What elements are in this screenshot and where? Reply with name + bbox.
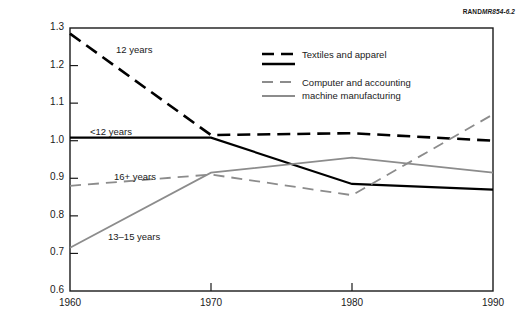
legend-label-computer-line2: machine manufacturing <box>302 90 401 101</box>
legend-label-computer-line1: Computer and accounting <box>302 77 411 88</box>
series-annotation: 12 years <box>116 44 152 55</box>
y-tick-label: 0.9 <box>38 171 64 182</box>
series-line <box>70 114 493 195</box>
y-tick-label: 1.0 <box>38 134 64 145</box>
y-axis-ticks <box>70 66 78 254</box>
series-annotation: 13–15 years <box>108 231 160 242</box>
x-tick-label: 1970 <box>186 297 236 308</box>
figure-container: RANDMR854-6.2 Ratio of California immigr… <box>0 0 523 324</box>
x-tick-label: 1980 <box>327 297 377 308</box>
y-tick-label: 0.8 <box>38 209 64 220</box>
x-axis-ticks <box>211 283 352 291</box>
y-tick-label: 1.1 <box>38 96 64 107</box>
series-annotation: <12 years <box>90 126 132 137</box>
y-tick-label: 1.3 <box>38 21 64 32</box>
x-tick-label: 1990 <box>468 297 518 308</box>
data-series-layer <box>70 34 493 248</box>
plot-frame <box>70 28 493 291</box>
series-annotation: 16+ years <box>114 171 156 182</box>
line-chart-plot <box>0 0 523 324</box>
legend-label-textiles: Textiles and apparel <box>302 48 387 61</box>
y-tick-label: 0.7 <box>38 246 64 257</box>
y-tick-label: 1.2 <box>38 59 64 70</box>
legend-label-computer: Computer and accountingmachine manufactu… <box>302 76 411 102</box>
legend-swatches <box>262 54 295 96</box>
x-tick-label: 1960 <box>45 297 95 308</box>
y-tick-label: 0.6 <box>38 284 64 295</box>
